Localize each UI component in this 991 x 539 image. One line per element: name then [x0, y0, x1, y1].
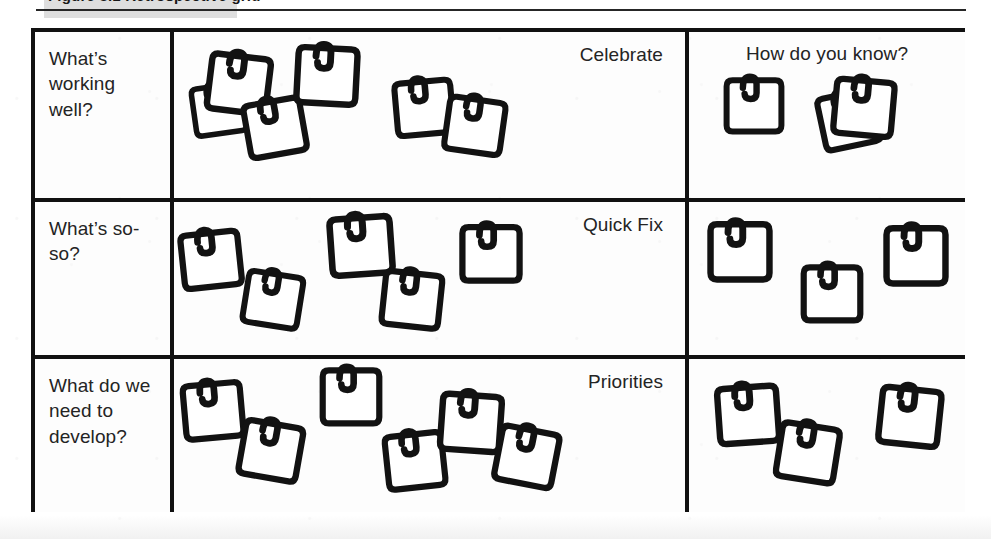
prompt-text-row-1: What’s working well?: [35, 32, 170, 130]
evidence-cell-row-1[interactable]: How do you know?: [689, 32, 965, 202]
caption-horizontal-rule: [36, 9, 966, 11]
sticky-note-icon: [236, 262, 310, 336]
notes-cell-row-2[interactable]: Quick Fix: [174, 202, 689, 359]
sticky-note-icon: [437, 87, 512, 162]
figure-caption-strip: Figure 3.1 Retrospective grid: [0, 0, 991, 24]
sticky-note-icon: [798, 259, 865, 326]
prompt-cell-row-3: What do we need to develop?: [35, 359, 174, 512]
sticky-note-icon: [290, 38, 364, 112]
note-field-row-3-evidence[interactable]: [689, 359, 965, 512]
scanned-page: Figure 3.1 Retrospective grid What’s wor…: [0, 0, 991, 539]
prompt-cell-row-1: What’s working well?: [35, 32, 174, 202]
sticky-note-icon: [769, 413, 847, 491]
note-field-row-3-main[interactable]: [174, 359, 685, 512]
retrospective-grid: What’s working well? Celebrate How do yo…: [31, 28, 965, 512]
sticky-note-icon: [457, 219, 525, 287]
sticky-note-icon: [827, 70, 901, 144]
notes-cell-row-1[interactable]: Celebrate: [174, 32, 689, 202]
note-field-row-1-evidence[interactable]: [689, 32, 965, 198]
sticky-note-icon: [881, 220, 951, 290]
note-field-row-1-main[interactable]: [174, 32, 685, 198]
notes-cell-row-3[interactable]: Priorities: [174, 359, 689, 512]
prompt-text-row-2: What’s so-so?: [35, 202, 170, 275]
sticky-note-icon: [872, 378, 949, 455]
note-field-row-2-main[interactable]: [174, 202, 685, 355]
evidence-cell-row-2[interactable]: [689, 202, 965, 359]
sticky-note-icon: [487, 416, 567, 496]
evidence-cell-row-3[interactable]: [689, 359, 965, 512]
sticky-note-icon: [317, 362, 384, 429]
prompt-text-row-3: What do we need to develop?: [35, 359, 170, 457]
prompt-cell-row-2: What’s so-so?: [35, 202, 174, 359]
sticky-note-icon: [705, 216, 775, 286]
sticky-note-icon: [174, 222, 248, 297]
sticky-note-icon: [231, 410, 310, 489]
sticky-note-icon: [721, 72, 786, 137]
note-field-row-2-evidence[interactable]: [689, 202, 965, 355]
scan-bottom-shadow: [0, 515, 991, 539]
figure-caption-text: Figure 3.1 Retrospective grid: [48, 0, 261, 4]
sticky-note-icon: [375, 262, 449, 336]
